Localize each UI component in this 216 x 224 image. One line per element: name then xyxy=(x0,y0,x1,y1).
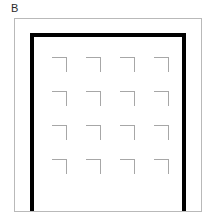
corner-bracket-vertical-stroke xyxy=(168,57,169,72)
corner-bracket-icon xyxy=(86,125,101,140)
corner-bracket-vertical-stroke xyxy=(168,125,169,140)
corner-bracket-horizontal-stroke xyxy=(154,159,169,160)
corner-bracket-horizontal-stroke xyxy=(86,125,101,126)
corner-bracket-vertical-stroke xyxy=(66,91,67,106)
corner-bracket-icon xyxy=(154,57,169,72)
corner-bracket-horizontal-stroke xyxy=(120,159,135,160)
corner-bracket-vertical-stroke xyxy=(134,125,135,140)
corner-bracket-vertical-stroke xyxy=(100,125,101,140)
corner-bracket-horizontal-stroke xyxy=(52,159,67,160)
corner-bracket-icon xyxy=(52,159,67,174)
corner-bracket-icon xyxy=(154,125,169,140)
corner-bracket-horizontal-stroke xyxy=(120,125,135,126)
corner-bracket-horizontal-stroke xyxy=(154,125,169,126)
corner-bracket-vertical-stroke xyxy=(168,159,169,174)
corner-bracket-vertical-stroke xyxy=(66,159,67,174)
corner-bracket-horizontal-stroke xyxy=(52,57,67,58)
corner-bracket-icon xyxy=(86,159,101,174)
corner-bracket-icon xyxy=(52,57,67,72)
corner-bracket-icon xyxy=(52,125,67,140)
corner-bracket-vertical-stroke xyxy=(66,125,67,140)
corner-bracket-icon xyxy=(154,91,169,106)
corner-bracket-grid xyxy=(0,0,216,224)
corner-bracket-vertical-stroke xyxy=(66,57,67,72)
corner-bracket-icon xyxy=(120,159,135,174)
figure-panel-b: B xyxy=(0,0,216,224)
corner-bracket-horizontal-stroke xyxy=(52,125,67,126)
corner-bracket-icon xyxy=(120,125,135,140)
corner-bracket-vertical-stroke xyxy=(100,91,101,106)
corner-bracket-horizontal-stroke xyxy=(52,91,67,92)
corner-bracket-horizontal-stroke xyxy=(154,57,169,58)
corner-bracket-vertical-stroke xyxy=(134,159,135,174)
corner-bracket-horizontal-stroke xyxy=(120,91,135,92)
corner-bracket-horizontal-stroke xyxy=(86,91,101,92)
corner-bracket-icon xyxy=(86,91,101,106)
corner-bracket-icon xyxy=(52,91,67,106)
corner-bracket-horizontal-stroke xyxy=(120,57,135,58)
corner-bracket-horizontal-stroke xyxy=(154,91,169,92)
corner-bracket-vertical-stroke xyxy=(134,57,135,72)
corner-bracket-vertical-stroke xyxy=(134,91,135,106)
corner-bracket-vertical-stroke xyxy=(100,159,101,174)
corner-bracket-icon xyxy=(120,57,135,72)
corner-bracket-horizontal-stroke xyxy=(86,57,101,58)
corner-bracket-horizontal-stroke xyxy=(86,159,101,160)
corner-bracket-vertical-stroke xyxy=(100,57,101,72)
corner-bracket-icon xyxy=(86,57,101,72)
corner-bracket-vertical-stroke xyxy=(168,91,169,106)
corner-bracket-icon xyxy=(154,159,169,174)
corner-bracket-icon xyxy=(120,91,135,106)
